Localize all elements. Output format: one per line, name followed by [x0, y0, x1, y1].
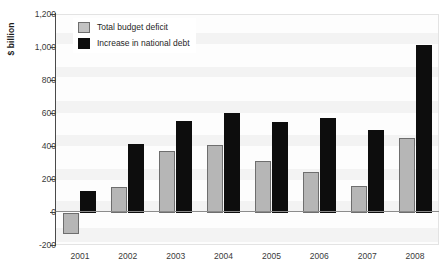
bar-2005-debt: [272, 122, 288, 213]
legend-item-deficit: Total budget deficit: [78, 22, 190, 33]
y-tick-label: 600: [10, 109, 56, 118]
bar-2007-debt: [368, 130, 384, 213]
x-tick-label-2006: 2006: [299, 252, 339, 261]
bar-2001-debt: [80, 191, 96, 213]
zero-baseline: [55, 211, 439, 212]
bar-2005-deficit: [255, 161, 271, 213]
bar-2004-debt: [224, 113, 240, 213]
background-band: [56, 228, 438, 242]
x-tick-label-2001: 2001: [60, 252, 100, 261]
y-tick-label: 0: [10, 208, 56, 217]
legend-swatch-deficit: [78, 22, 90, 33]
x-tick-label-2007: 2007: [347, 252, 387, 261]
bar-2004-deficit: [207, 145, 223, 213]
bar-2003-debt: [176, 121, 192, 213]
x-tick-label-2003: 2003: [156, 252, 196, 261]
legend-item-debt: Increase in national debt: [78, 38, 190, 49]
bar-2006-debt: [320, 118, 336, 213]
y-tick-label: 200: [10, 175, 56, 184]
bar-2001-deficit: [63, 213, 79, 234]
y-tick-label: -200: [10, 241, 56, 250]
bar-2002-debt: [128, 144, 144, 213]
x-tick-label-2005: 2005: [251, 252, 291, 261]
y-tick-label: 400: [10, 142, 56, 151]
y-tick-label: 1,000: [10, 43, 56, 52]
bar-2007-deficit: [351, 186, 367, 213]
background-band: [56, 67, 438, 77]
bar-2003-deficit: [159, 151, 175, 213]
y-tick-label: 800: [10, 76, 56, 85]
bar-2006-deficit: [303, 172, 319, 213]
bar-chart: $ billion 1,2001,0008006004002000-200 20…: [0, 0, 441, 269]
bar-2008-deficit: [399, 138, 415, 213]
y-tick-label: 1,200: [10, 10, 56, 19]
legend-swatch-debt: [78, 38, 90, 49]
background-band: [56, 101, 438, 113]
x-tick-label-2008: 2008: [395, 252, 435, 261]
bar-2008-debt: [416, 45, 432, 213]
y-axis-ticks: 1,2001,0008006004002000-200: [0, 0, 56, 269]
x-tick-label-2004: 2004: [204, 252, 244, 261]
legend-label-deficit: Total budget deficit: [97, 23, 168, 32]
legend-label-debt: Increase in national debt: [97, 39, 190, 48]
legend: Total budget deficitIncrease in national…: [73, 18, 196, 53]
bar-2002-deficit: [111, 187, 127, 213]
x-tick-label-2002: 2002: [108, 252, 148, 261]
